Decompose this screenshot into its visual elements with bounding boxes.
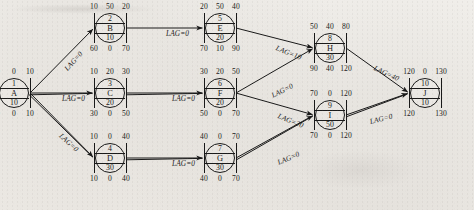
node-c-duration: 20 (98, 99, 122, 107)
node-j-late-finish: 130 (429, 110, 453, 118)
node-j-late-start: 120 (397, 110, 421, 118)
node-i-activity-name: I (318, 111, 342, 120)
node-g-right-bar (236, 143, 237, 173)
node-b-right-bar (126, 13, 127, 43)
node-h-left-bar (314, 33, 315, 63)
node-d-activity-number: 4 (98, 145, 122, 153)
node-a-right-bar (30, 78, 31, 108)
node-a-activity-name: A (2, 89, 26, 98)
node-d-duration: 30 (98, 164, 122, 172)
node-g-activity-name: G (208, 154, 232, 163)
node-e-right-bar (236, 13, 237, 43)
node-b-duration: 10 (98, 34, 122, 42)
node-h-right-bar (346, 33, 347, 63)
edge-a-b (30, 29, 93, 93)
node-e-late-finish: 90 (224, 45, 248, 53)
node-j-left-bar (409, 78, 410, 108)
node-e-duration: 20 (208, 34, 232, 42)
node-b-activity-number: 2 (98, 15, 122, 23)
node-f-early-finish: 50 (224, 68, 248, 76)
node-g-early-finish: 70 (224, 133, 248, 141)
node-d-early-finish: 40 (114, 133, 138, 141)
node-j-right-bar (441, 78, 442, 108)
node-i-early-finish: 120 (334, 90, 358, 98)
node-c-left-bar (94, 78, 95, 108)
edge-b-e-lag-label: LAG=0 (166, 30, 189, 38)
node-d-activity-name: D (98, 154, 122, 163)
node-j-activity-name: J (413, 89, 437, 98)
node-e-activity-name: E (208, 24, 232, 33)
node-c-late-finish: 50 (114, 110, 138, 118)
node-h-activity-name: H (318, 44, 342, 53)
node-a-early-finish: 10 (18, 68, 42, 76)
node-h-late-finish: 120 (334, 65, 358, 73)
node-f-left-bar (204, 78, 205, 108)
node-i-left-bar (314, 100, 315, 130)
node-f-right-bar (236, 78, 237, 108)
edge-a-d-second-stroke (29, 94, 93, 157)
node-c-activity-number: 3 (98, 80, 122, 88)
node-a-activity-number: 1 (2, 80, 26, 88)
node-f-activity-name: F (208, 89, 232, 98)
node-a-late-finish: 10 (18, 110, 42, 118)
node-d-late-finish: 40 (114, 175, 138, 183)
node-i-right-bar (346, 100, 347, 130)
node-f-duration: 20 (208, 99, 232, 107)
node-g-duration: 30 (208, 164, 232, 172)
node-e-activity-number: 5 (208, 15, 232, 23)
node-j-duration: 10 (413, 99, 437, 107)
node-e-early-finish: 40 (224, 3, 248, 11)
node-f-late-finish: 70 (224, 110, 248, 118)
edge-d-g-lag-label: LAG=0 (172, 160, 195, 168)
node-b-left-bar (94, 13, 95, 43)
node-g-late-finish: 70 (224, 175, 248, 183)
node-b-early-finish: 20 (114, 3, 138, 11)
node-h-early-finish: 80 (334, 23, 358, 31)
node-i-late-finish: 120 (334, 132, 358, 140)
node-c-activity-name: C (98, 89, 122, 98)
node-g-left-bar (204, 143, 205, 173)
node-f-activity-number: 6 (208, 80, 232, 88)
node-j-activity-number: 10 (413, 80, 437, 88)
edge-a-c-lag-label: LAG=0 (62, 95, 85, 103)
node-b-activity-name: B (98, 24, 122, 33)
node-i-activity-number: 9 (318, 102, 342, 110)
node-e-left-bar (204, 13, 205, 43)
node-a-duration: 10 (2, 99, 26, 107)
node-h-duration: 30 (318, 54, 342, 62)
node-h-activity-number: 8 (318, 35, 342, 43)
network-diagram-figure: 1A10001000102B10105020600703C20102030300… (0, 0, 474, 210)
node-g-activity-number: 7 (208, 145, 232, 153)
node-c-right-bar (126, 78, 127, 108)
node-i-duration: 50 (318, 121, 342, 129)
edge-c-f-lag-label: LAG=0 (172, 95, 195, 103)
node-j-early-finish: 130 (429, 68, 453, 76)
node-d-right-bar (126, 143, 127, 173)
node-b-late-finish: 70 (114, 45, 138, 53)
node-d-left-bar (94, 143, 95, 173)
node-c-early-finish: 30 (114, 68, 138, 76)
